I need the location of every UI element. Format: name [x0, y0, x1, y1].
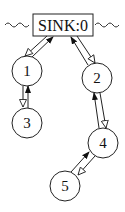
edge-2-to-4 [100, 93, 106, 128]
sink-node: SINK:0 [33, 14, 93, 36]
node-1: 1 [12, 56, 42, 86]
edge-2-to-sink [71, 37, 88, 65]
node-2-label: 2 [93, 70, 101, 86]
node-4-label: 4 [99, 135, 107, 151]
node-3-label: 3 [23, 115, 31, 131]
sink-label: SINK:0 [38, 17, 88, 34]
node-5: 5 [50, 171, 80, 201]
edge-4-to-5 [78, 156, 95, 175]
node-1-label: 1 [23, 63, 31, 79]
edge-sink-to-2 [77, 36, 95, 63]
node-3: 3 [12, 108, 42, 138]
edge-5-to-4 [71, 152, 89, 172]
node-2: 2 [82, 63, 112, 93]
edge-4-to-2 [94, 93, 99, 128]
network-diagram: SINK:0 1 2 3 4 5 [0, 0, 125, 212]
wavy-line-left [5, 23, 29, 27]
wavy-line-right [95, 23, 119, 27]
node-5-label: 5 [61, 178, 69, 194]
node-4: 4 [88, 128, 118, 158]
